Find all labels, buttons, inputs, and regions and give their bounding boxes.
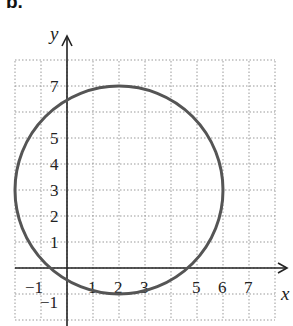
y-tick-label: −1: [40, 293, 58, 312]
y-tick-label: 5: [50, 129, 59, 148]
x-axis-label: x: [280, 283, 290, 304]
y-axis-label: y: [48, 23, 59, 44]
x-tick-label: 7: [244, 278, 253, 297]
y-tick-label: 3: [50, 181, 59, 200]
coordinate-plot: x y −1123567754321−1: [0, 0, 293, 326]
x-tick-label: 6: [218, 278, 227, 297]
x-tick-label: 1: [88, 278, 97, 297]
y-tick-label: 2: [50, 207, 59, 226]
y-tick-label: 1: [50, 233, 59, 252]
x-tick-label: 3: [140, 278, 149, 297]
x-tick-label: 5: [192, 278, 201, 297]
y-tick-label: 4: [50, 155, 59, 174]
y-tick-label: 7: [50, 77, 59, 96]
